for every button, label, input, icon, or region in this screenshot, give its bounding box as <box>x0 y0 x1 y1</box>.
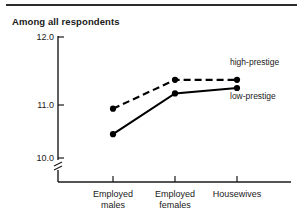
data-point-low-prestige-Employed-females <box>172 90 178 96</box>
legend-label-low-prestige: low-prestige <box>230 91 276 101</box>
data-point-low-prestige-Employed-males <box>110 131 116 137</box>
y-tick-label-12: 12.0 <box>36 32 54 42</box>
y-tick-label-10: 10.0 <box>36 153 54 163</box>
x-label-employed-females-line2: females <box>159 200 191 210</box>
data-point-high-prestige-Employed-males <box>110 106 116 112</box>
x-label-housewives-line1: Housewives <box>213 189 262 199</box>
y-tick-label-11: 11.0 <box>37 100 54 110</box>
data-point-high-prestige-Employed-females <box>172 77 178 83</box>
line-chart: 12.0 11.0 10.0 Employed males Employed f… <box>0 0 303 221</box>
x-label-employed-males-line1: Employed <box>93 189 133 199</box>
data-point-high-prestige-Housewives <box>234 77 240 83</box>
x-label-employed-females-line1: Employed <box>155 189 195 199</box>
legend-label-high-prestige: high-prestige <box>230 57 279 67</box>
axis-break-icon-2 <box>54 166 62 170</box>
x-label-employed-males-line2: males <box>101 200 126 210</box>
series-layer <box>110 77 240 138</box>
figure-container: Among all respondents 12.0 11.0 10.0 Emp… <box>0 0 303 221</box>
axis-break-icon <box>54 162 62 166</box>
